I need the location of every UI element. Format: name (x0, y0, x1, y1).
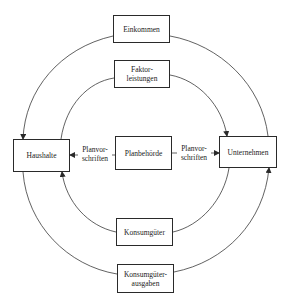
circular-flow-diagram: Einkommen Faktor- leistungen Haushalte P… (0, 0, 289, 306)
node-einkommen: Einkommen (113, 15, 170, 43)
node-unternehmen: Unternehmen (219, 136, 277, 168)
node-planbehoerde-label: Planbehörde (125, 149, 163, 158)
edge-label-left-line1: Planvor- (78, 145, 112, 154)
edge-label-planvorschriften-right: Planvor- schriften (177, 144, 211, 162)
node-faktorleistungen-label-1: Faktor- (131, 65, 153, 74)
node-haushalte: Haushalte (13, 139, 70, 172)
edge-label-right-line2: schriften (177, 153, 211, 162)
node-unternehmen-label: Unternehmen (228, 148, 269, 157)
node-konsumgueterausgaben-label-2: ausgaben (132, 279, 160, 288)
edge-einkommen-to-haushalte (23, 36, 113, 139)
node-faktorleistungen-label-2: leistungen (127, 74, 158, 83)
node-konsumgueterausgaben-label-1: Konsumgüter- (124, 270, 167, 279)
node-konsumgueter: Konsumgüter (116, 218, 173, 246)
node-konsumgueter-label: Konsumgüter (124, 228, 165, 237)
edge-unternehmen-to-konsumgueter (173, 168, 229, 232)
edge-label-planvorschriften-left: Planvor- schriften (78, 145, 112, 163)
node-haushalte-label: Haushalte (27, 151, 57, 160)
edge-unternehmen-to-einkommen (170, 36, 268, 136)
edge-label-right-line1: Planvor- (177, 144, 211, 153)
node-planbehoerde: Planbehörde (115, 136, 172, 170)
edge-konsumgueter-to-haushalte (62, 172, 116, 232)
node-konsumgueterausgaben: Konsumgüter- ausgaben (117, 264, 174, 293)
node-faktorleistungen: Faktor- leistungen (114, 60, 170, 88)
edge-konsumgueterausgaben-to-unternehmen (174, 168, 269, 272)
edge-label-left-line2: schriften (78, 154, 112, 163)
edge-haushalte-to-konsumgueterausgaben (23, 172, 117, 274)
edge-haushalte-to-faktorleistungen (61, 78, 114, 139)
edge-faktorleistungen-to-unternehmen (170, 75, 227, 136)
node-einkommen-label: Einkommen (123, 25, 160, 34)
